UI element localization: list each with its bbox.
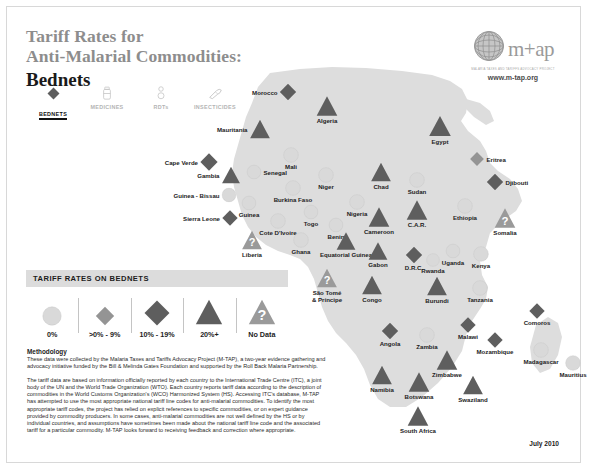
- legend-item-3: 20%+: [183, 296, 235, 339]
- country-marker-eritrea[interactable]: Eritrea: [470, 152, 485, 167]
- country-marker-angola[interactable]: Angola: [382, 323, 399, 340]
- country-label: South Africa: [400, 427, 436, 434]
- diamond-small-marker: [95, 306, 115, 326]
- triangle-marker: [371, 162, 392, 183]
- country-label: Zimbabwe: [432, 371, 462, 378]
- triangle-question-marker: ?: [494, 207, 516, 229]
- country-marker-cameroon[interactable]: Cameroon: [368, 206, 390, 228]
- triangle-marker: [407, 405, 429, 427]
- triangle-marker: [368, 206, 390, 228]
- legend-items: 0%>0% - 9%10% - 19%20%+?No Data: [26, 296, 288, 339]
- country-marker-s-o-tom-pr-ncipe[interactable]: ?São Tomé& Príncipe: [317, 268, 338, 289]
- country-marker-gambia[interactable]: Gambia: [222, 166, 241, 185]
- country-marker-niger[interactable]: Niger: [318, 167, 334, 183]
- country-label: Botswana: [405, 393, 434, 400]
- circle-marker: [446, 244, 461, 259]
- triangle-marker: [362, 275, 383, 296]
- diamond-large-marker: [487, 332, 503, 348]
- title-line-1: Tariff Rates for: [26, 26, 356, 46]
- country-marker-botswana[interactable]: Botswana: [408, 371, 430, 393]
- legend-label: 10% - 19%: [131, 330, 183, 339]
- country-marker-morocco[interactable]: Morocco: [280, 84, 297, 101]
- country-marker-djibouti[interactable]: Djibouti: [487, 174, 504, 191]
- legend-label: 20%+: [183, 330, 235, 339]
- circle-marker: [285, 180, 301, 196]
- diamond-large-marker: [406, 247, 423, 264]
- country-marker-tanzania[interactable]: Tanzania: [472, 280, 488, 296]
- country-marker-congo[interactable]: Congo: [362, 275, 383, 296]
- country-marker-algeria[interactable]: Algeria: [316, 95, 338, 117]
- country-marker-d-r-c[interactable]: D.R.C.: [406, 247, 423, 264]
- country-marker-mauritius[interactable]: Mauritius: [565, 355, 581, 371]
- country-marker-swaziland[interactable]: Swaziland: [463, 375, 484, 396]
- country-label: Comoros: [524, 319, 551, 326]
- country-marker-kenya[interactable]: Kenya: [473, 246, 489, 262]
- commodity-tab-bednets[interactable]: BEDNETS: [26, 85, 80, 120]
- country-marker-zambia[interactable]: Zambia: [419, 327, 435, 343]
- methodology-paragraph-2: The tariff data are based on information…: [27, 377, 327, 434]
- country-marker-cape-verde[interactable]: Cape Verde: [200, 153, 218, 171]
- triangle-marker: [427, 276, 448, 297]
- poster-root: Tariff Rates for Anti-Malarial Commoditi…: [0, 0, 589, 471]
- country-marker-burkina-faso[interactable]: Burkina Faso: [285, 180, 301, 196]
- country-label: Cameroon: [364, 228, 394, 235]
- country-marker-mauritania[interactable]: Mauritania: [250, 119, 271, 140]
- country-marker-malawi[interactable]: Malawi: [460, 317, 476, 333]
- country-marker-rwanda[interactable]: Rwanda: [426, 253, 440, 267]
- country-marker-zimbabwe[interactable]: Zimbabwe: [436, 349, 458, 371]
- triangle-marker: [436, 349, 458, 371]
- triangle-marker: [368, 241, 388, 261]
- country-marker-madagascar[interactable]: Madagascar: [533, 342, 549, 358]
- commodity-tab-label: MEDICINES: [80, 104, 134, 110]
- country-marker-somalia[interactable]: ?Somalia: [494, 207, 516, 229]
- country-marker-togo[interactable]: Togo: [304, 205, 319, 220]
- diamond-large-marker: [382, 323, 399, 340]
- country-marker-namibia[interactable]: Namibia: [372, 365, 393, 386]
- circle-marker: [409, 172, 425, 188]
- country-marker-mali[interactable]: Mali: [283, 147, 299, 163]
- legend-label: No Data: [236, 330, 288, 339]
- country-marker-guinea-bissau[interactable]: Guinea - Bissau: [222, 188, 237, 203]
- country-label: Zambia: [416, 343, 437, 350]
- svg-text:?: ?: [502, 215, 509, 227]
- triangle-marker: [406, 199, 428, 221]
- circle-marker: [349, 194, 365, 210]
- circle-marker: [42, 306, 62, 326]
- country-label: Mauritius: [559, 371, 586, 378]
- country-label: Eritrea: [487, 156, 506, 163]
- country-label: Gabon: [368, 261, 387, 268]
- country-marker-south-africa[interactable]: South Africa: [407, 405, 429, 427]
- country-marker-mozambique[interactable]: Mozambique: [487, 332, 503, 348]
- country-marker-comoros[interactable]: Comoros: [529, 303, 545, 319]
- circle-marker: [293, 232, 309, 248]
- triangle-marker: [429, 115, 452, 138]
- country-marker-nigeria[interactable]: Nigeria: [349, 194, 365, 210]
- country-label: Burkina Faso: [274, 196, 313, 203]
- country-marker-cote-d-ivoire[interactable]: Cote D'Ivoire: [270, 213, 286, 229]
- country-label: Equatorial Guinea: [320, 251, 372, 258]
- country-marker-burundi[interactable]: Burundi: [427, 276, 448, 297]
- circle-marker: [419, 327, 435, 343]
- country-marker-sierra-leone[interactable]: Sierra Leone: [222, 210, 238, 226]
- country-label: Senegal: [264, 169, 287, 176]
- triangle-marker: [408, 371, 430, 393]
- diamond-small-marker: [470, 152, 485, 167]
- country-marker-guinea[interactable]: Guinea: [242, 196, 257, 211]
- country-marker-c-a-r[interactable]: C.A.R.: [406, 199, 428, 221]
- country-label: Cape Verde: [165, 159, 198, 166]
- methodology-heading: Methodology: [27, 348, 327, 355]
- country-marker-chad[interactable]: Chad: [371, 162, 392, 183]
- methodology-block: Methodology These data were collected by…: [27, 348, 327, 441]
- country-label: Tanzania: [467, 296, 493, 303]
- country-marker-ghana[interactable]: Ghana: [293, 232, 309, 248]
- country-marker-uganda[interactable]: Uganda: [446, 244, 461, 259]
- country-marker-equatorial-guinea[interactable]: Equatorial Guinea: [336, 231, 356, 251]
- country-label: Mozambique: [477, 348, 514, 355]
- diamond-large-marker: [222, 210, 238, 226]
- country-marker-gabon[interactable]: Gabon: [368, 241, 388, 261]
- country-marker-ethiopia[interactable]: Ethiopia: [457, 198, 473, 214]
- country-marker-sudan[interactable]: Sudan: [409, 172, 425, 188]
- commodity-tab-medicines[interactable]: MEDICINES: [80, 85, 134, 120]
- country-marker-senegal[interactable]: Senegal: [247, 165, 262, 180]
- country-marker-egypt[interactable]: Egypt: [429, 115, 452, 138]
